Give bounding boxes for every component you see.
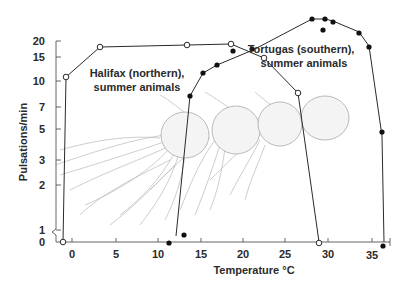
data-point-filled [230, 48, 235, 53]
data-point-open [97, 44, 103, 50]
x-tick-label: 15 [195, 248, 207, 260]
data-point-filled [330, 19, 335, 24]
jellyfish-bell-3 [258, 102, 302, 146]
data-point-open [228, 41, 234, 47]
data-point-open [295, 90, 301, 96]
x-tick-label: 10 [152, 248, 164, 260]
y-tick-label: 15 [33, 51, 45, 63]
x-tick-label: 5 [113, 248, 119, 260]
jellyfish-bell-1 [161, 112, 209, 158]
annotation-tortugas-line2: summer animals [261, 57, 348, 69]
data-point-filled [214, 62, 219, 67]
y-axis-label: Pulsations/min [17, 103, 29, 182]
x-axis: 0 5 10 15 20 25 30 35 Temperature °C [56, 238, 390, 276]
data-point-filled [166, 240, 171, 245]
annotation-tortugas-line1: Tortugas (southern), [248, 43, 355, 55]
x-tick-label: 20 [237, 248, 249, 260]
jellyfish-bell-2 [212, 106, 260, 154]
annotation-halifax: Halifax (northern), summer animals [90, 67, 185, 93]
x-tick-label: 25 [279, 248, 291, 260]
pulsation-temperature-chart: 20 15 10 7 5 3 2 1 0 Pulsations/min 0 5 … [0, 0, 405, 293]
x-tick-label: 30 [322, 248, 334, 260]
data-point-filled [380, 243, 385, 248]
y-tick-label: 2 [39, 179, 45, 191]
axis-break-icon [52, 226, 56, 242]
data-point-open [63, 74, 69, 80]
y-tick-label: 5 [39, 123, 45, 135]
annotation-halifax-line2: summer animals [94, 81, 181, 93]
data-point-filled [187, 93, 192, 98]
data-point-filled [322, 16, 327, 21]
x-axis-label: Temperature °C [213, 264, 294, 276]
y-tick-label: 0 [39, 236, 45, 248]
data-point-filled [309, 16, 314, 21]
y-axis: 20 15 10 7 5 3 2 1 0 Pulsations/min [17, 35, 61, 248]
data-point-filled [366, 44, 371, 49]
y-tick-label: 3 [39, 154, 45, 166]
data-point-open [184, 42, 190, 48]
y-tick-label: 10 [33, 75, 45, 87]
annotation-halifax-line1: Halifax (northern), [90, 67, 185, 79]
jellyfish-illustration [55, 92, 349, 225]
data-point-open [316, 240, 322, 246]
data-point-open [60, 239, 66, 245]
data-point-filled [200, 70, 205, 75]
y-tick-label: 1 [39, 224, 45, 236]
jellyfish-bell-4 [301, 96, 349, 140]
data-point-filled [181, 232, 186, 237]
data-point-filled [379, 129, 384, 134]
y-tick-label: 7 [39, 101, 45, 113]
data-point-filled [320, 27, 325, 32]
x-tick-label: 35 [366, 249, 378, 261]
x-tick-label: 0 [69, 248, 75, 260]
data-point-filled [356, 30, 361, 35]
y-tick-label: 20 [33, 35, 45, 47]
